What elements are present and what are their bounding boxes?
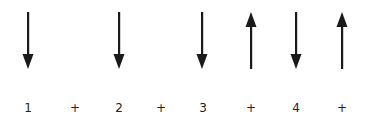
- arrow-up-icon: [336, 12, 348, 69]
- arrow-down-icon: [196, 12, 208, 69]
- plus-label: +: [241, 100, 261, 116]
- plus-label: +: [332, 100, 352, 116]
- arrow-down-icon: [290, 12, 302, 69]
- plus-label: +: [151, 100, 171, 116]
- index-label: 4: [286, 100, 306, 116]
- plus-label: +: [65, 100, 85, 116]
- index-label: 2: [109, 100, 129, 116]
- index-label: 3: [193, 100, 213, 116]
- arrow-up-icon: [245, 12, 257, 69]
- index-label: 1: [18, 100, 38, 116]
- arrow-down-icon: [113, 12, 125, 69]
- arrow-down-icon: [22, 12, 34, 69]
